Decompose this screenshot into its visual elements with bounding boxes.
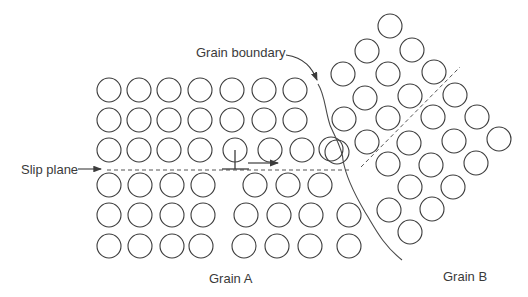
atom [298,234,322,258]
atom [332,107,356,131]
atom [234,203,258,227]
atom [128,203,152,227]
atom [97,234,121,258]
atom [299,203,323,227]
atom [220,108,244,132]
atom [398,175,422,199]
atom [337,203,361,227]
grain-a-lattice [97,78,361,258]
atom [157,138,181,162]
atom [337,234,361,258]
atom [376,62,400,86]
grain-b-label: Grain B [443,270,487,283]
atom [376,106,400,130]
atom [421,105,445,129]
grain-boundary-label: Grain boundary [196,46,286,59]
atom [97,173,121,197]
grain-a-label: Grain A [209,272,252,285]
atom [160,203,184,227]
atom [127,78,151,102]
atom [157,78,181,102]
atom [232,234,256,258]
atom [191,203,215,227]
atom [353,86,377,110]
atom [188,108,212,132]
atom [283,78,307,102]
grain-boundary-pointer-arrow [286,55,317,80]
grain-boundary-line [318,84,402,260]
atom [420,197,444,221]
atom [97,108,121,132]
atom [398,84,422,108]
atom [160,234,184,258]
grain-b-lattice [319,14,511,244]
atom [127,108,151,132]
atom [283,108,307,132]
atom [128,234,152,258]
atom [188,138,212,162]
atom [265,234,289,258]
atom [220,78,244,102]
atom [276,173,300,197]
atom [189,234,213,258]
atom [252,108,276,132]
atom [331,62,355,86]
atom [487,127,511,151]
atom [464,151,488,175]
atom [127,138,151,162]
atom [188,78,212,102]
atom [128,173,152,197]
dislocation-symbol [222,150,249,169]
atom [97,78,121,102]
atom [290,138,314,162]
atom [258,138,282,162]
atom [422,60,446,84]
atom [442,129,466,153]
atom [441,175,465,199]
atom [443,83,467,107]
atom [465,105,489,129]
atom [252,78,276,102]
atom [377,198,401,222]
atom [419,153,443,177]
atom [376,152,400,176]
atom [397,131,421,155]
atom [400,38,424,62]
atom [97,138,121,162]
atom [243,173,267,197]
atom [160,173,184,197]
atom [355,130,379,154]
atom [319,137,343,161]
atom [267,203,291,227]
atom [191,173,215,197]
atom [97,203,121,227]
atom [308,173,332,197]
slip-plane-label: Slip plane [21,163,78,176]
atom [157,108,181,132]
atom [398,220,422,244]
atom [355,39,379,63]
atom [378,14,402,38]
